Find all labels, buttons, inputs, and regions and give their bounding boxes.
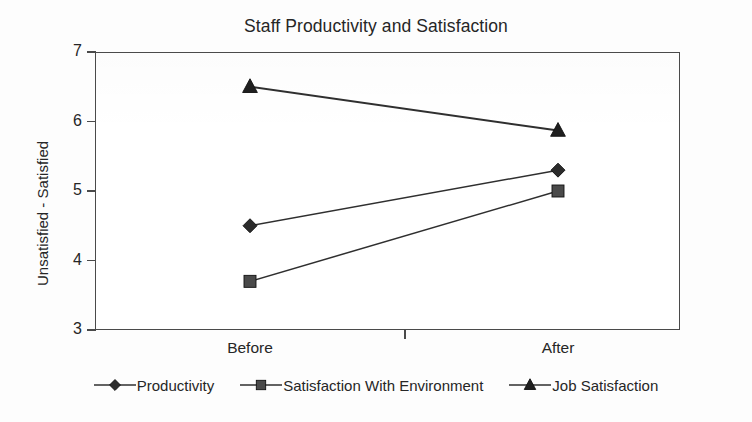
y-axis-tick xyxy=(87,190,96,192)
plot-area xyxy=(95,52,680,330)
x-axis-tick xyxy=(404,330,406,339)
y-axis-title: Unsatisfied - Satisfied xyxy=(34,86,56,286)
x-axis-category-label: Before xyxy=(180,339,320,357)
legend-item[interactable]: Satisfaction With Environment xyxy=(240,377,483,393)
legend-label: Job Satisfaction xyxy=(552,378,658,393)
y-axis-tick xyxy=(87,51,96,53)
y-axis-tick xyxy=(87,121,96,123)
y-axis-tick-label: 7 xyxy=(58,43,82,59)
chart-title: Staff Productivity and Satisfaction xyxy=(0,16,752,37)
y-axis-tick-label: 6 xyxy=(58,113,82,129)
legend-item[interactable]: Job Satisfaction xyxy=(509,377,658,393)
x-axis-category-label: After xyxy=(488,339,628,357)
y-axis-tick-label: 4 xyxy=(58,252,82,268)
y-axis-tick xyxy=(87,260,96,262)
chart-legend: ProductivitySatisfaction With Environmen… xyxy=(0,377,752,393)
y-axis-tick-label: 3 xyxy=(58,321,82,337)
chart-page: Staff Productivity and Satisfaction Unsa… xyxy=(0,0,752,422)
legend-marker-triangle-icon xyxy=(509,377,551,393)
y-axis-tick xyxy=(87,329,96,331)
legend-label: Satisfaction With Environment xyxy=(283,378,483,393)
legend-item[interactable]: Productivity xyxy=(94,377,215,393)
legend-marker-diamond-icon xyxy=(94,377,136,393)
legend-marker-square-icon xyxy=(240,377,282,393)
legend-label: Productivity xyxy=(137,378,215,393)
y-axis-tick-label: 5 xyxy=(58,182,82,198)
